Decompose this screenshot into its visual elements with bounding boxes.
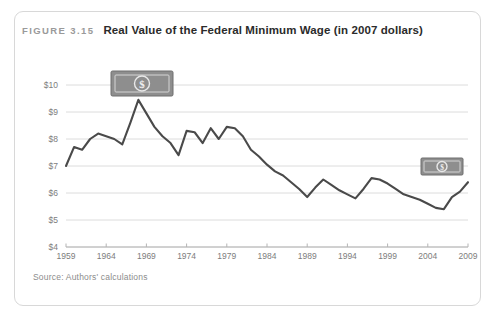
figure-header: FIGURE 3.15 Real Value of the Federal Mi…: [22, 24, 423, 36]
page-title: Real Value of the Federal Minimum Wage (…: [103, 24, 423, 36]
figure-number-label: FIGURE 3.15: [22, 25, 94, 36]
source-note: Source: Authors' calculations: [33, 272, 148, 282]
figure-card: [14, 11, 481, 306]
